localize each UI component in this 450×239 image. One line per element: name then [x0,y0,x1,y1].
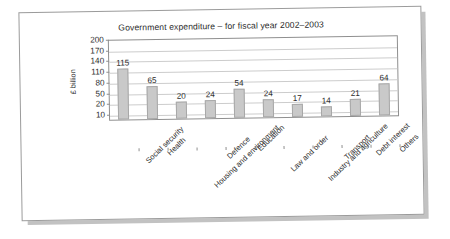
y-axis-tick-label: 200 [90,35,104,44]
bar [117,69,129,120]
bar [147,86,159,119]
bar [292,103,303,117]
bar-value-label: 21 [341,89,369,98]
y-axis-tick-labels: 20017014011080502010 [76,40,108,121]
bar-value-label: 14 [312,96,340,105]
bar-chart: Government expenditure – for fiscal year… [19,7,425,222]
chart-title: Government expenditure – for fiscal year… [20,18,423,34]
bar [350,99,361,116]
scanned-page-sheet: Government expenditure – for fiscal year… [18,6,424,221]
y-axis-tick-label: 140 [90,57,104,66]
bar-series: 115652024542417142164 [108,35,399,121]
bar-value-label: 54 [225,79,253,88]
y-axis-tick-label: 20 [96,100,105,109]
y-axis-tick-label: 10 [96,110,105,119]
x-axis-tick-mark [139,148,140,151]
bar [176,102,187,119]
bar-value-label: 64 [370,73,398,82]
y-axis-tick-label: 110 [91,68,104,77]
x-axis-tick-mark [226,147,227,150]
y-axis-tick-label: 80 [95,78,104,87]
bar-value-label: 65 [138,76,166,85]
bar [234,89,245,118]
y-axis-tick-label: 170 [90,46,104,55]
x-axis-tick-mark [284,146,285,149]
x-axis-tick-mark [342,145,343,148]
bar-value-label: 115 [109,59,137,68]
bar-value-label: 17 [283,93,311,102]
bar [321,106,332,116]
x-axis-tick-mark [197,147,198,150]
bar-value-label: 24 [196,90,224,99]
x-axis-category-label: Law and order [288,133,329,173]
bar [263,99,274,117]
bar-value-label: 24 [254,89,282,98]
y-axis-tick-label: 50 [95,89,104,98]
bar [205,100,216,118]
bar [379,83,391,116]
bar-value-label: 20 [167,92,195,101]
